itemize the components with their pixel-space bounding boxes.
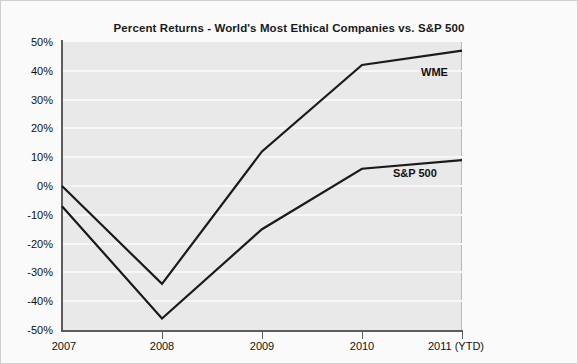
x-axis-tick-label: 2010 xyxy=(350,340,374,352)
series-label-wme: WME xyxy=(421,66,448,78)
y-axis-tick-label: 20% xyxy=(0,122,53,134)
y-axis-tick-label: -30% xyxy=(0,266,53,278)
x-axis-tick-mark xyxy=(162,332,163,339)
y-axis-tick-label: 50% xyxy=(0,36,53,48)
gridline xyxy=(62,127,462,129)
x-axis-tick-label: 2007 xyxy=(52,340,76,352)
chart-title: Percent Returns - World's Most Ethical C… xyxy=(0,22,578,34)
gridline xyxy=(62,185,462,187)
gridline xyxy=(62,156,462,158)
gridline xyxy=(62,300,462,302)
y-axis-tick-label: -50% xyxy=(0,324,53,336)
gridline xyxy=(62,70,462,72)
y-axis-tick-label: 40% xyxy=(0,65,53,77)
gridline xyxy=(62,99,462,101)
x-axis-tick-mark xyxy=(362,332,363,339)
x-axis-tick-label: 2011 (YTD) xyxy=(428,340,484,352)
y-axis-tick-label: -10% xyxy=(0,209,53,221)
y-axis-tick-label: 30% xyxy=(0,94,53,106)
x-axis-tick-label: 2008 xyxy=(150,340,174,352)
gridline xyxy=(62,243,462,245)
y-axis-tick-label: 0% xyxy=(0,180,53,192)
y-axis-tick-label: -40% xyxy=(0,295,53,307)
y-axis-tick-label: -20% xyxy=(0,238,53,250)
gridline xyxy=(62,271,462,273)
gridline xyxy=(62,214,462,216)
chart-figure: Percent Returns - World's Most Ethical C… xyxy=(0,0,578,364)
x-axis-tick-label: 2009 xyxy=(250,340,274,352)
y-axis-tick-label: 10% xyxy=(0,151,53,163)
x-axis-tick-mark xyxy=(262,332,263,339)
series-label-sp500: S&P 500 xyxy=(393,167,437,179)
x-axis-tick-mark xyxy=(462,332,463,339)
y-axis-line xyxy=(61,40,63,332)
